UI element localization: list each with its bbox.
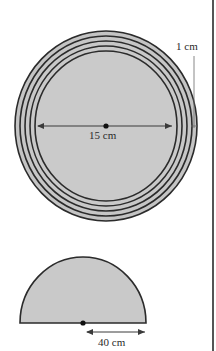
semicircle-shape <box>20 257 146 323</box>
center-dot <box>103 123 108 128</box>
semicircle-center-dot <box>80 320 85 325</box>
diameter-label: 15 cm <box>89 129 116 141</box>
diagram-canvas: 1 cm 15 cm 40 cm <box>0 0 216 351</box>
ring-width-label: 1 cm <box>176 40 198 52</box>
diagram-svg <box>0 0 216 351</box>
radius-label: 40 cm <box>98 336 125 348</box>
